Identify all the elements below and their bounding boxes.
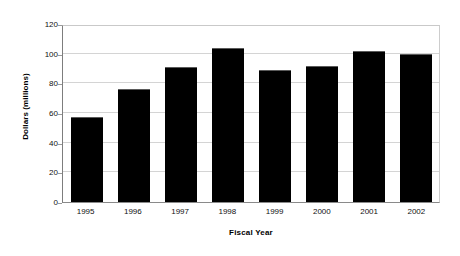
bar-chart-figure: Dollars (millions) 120 100 80 60 40 20 0…: [0, 0, 460, 256]
bar[interactable]: [306, 66, 338, 202]
bar-slot: [204, 26, 251, 202]
x-tick-label: 1998: [204, 207, 251, 221]
x-tick-label: 1999: [251, 207, 298, 221]
bar-series: [63, 26, 439, 202]
x-tick-label: 2000: [298, 207, 345, 221]
x-axis-tick-labels: 19951996199719981999200020012002: [62, 207, 440, 221]
bar-slot: [298, 26, 345, 202]
y-axis-title-text: Dollars (millions): [21, 73, 30, 140]
y-tick-label: 120: [32, 21, 58, 29]
bar-slot: [63, 26, 110, 202]
y-axis-tick-labels: 120 100 80 60 40 20 0: [32, 0, 58, 212]
y-tick-mark: [58, 203, 62, 204]
y-tick-label: 60: [32, 110, 58, 118]
y-tick-label: 20: [32, 169, 58, 177]
bar-slot: [345, 26, 392, 202]
bar-slot: [392, 26, 439, 202]
x-tick-label: 2001: [346, 207, 393, 221]
bar[interactable]: [400, 54, 432, 202]
x-axis-title: Fiscal Year: [62, 228, 440, 237]
y-tick-label: 100: [32, 51, 58, 59]
bar[interactable]: [118, 89, 150, 202]
x-tick-label: 1995: [62, 207, 109, 221]
x-tick-label: 1996: [109, 207, 156, 221]
plot-area: [62, 25, 440, 203]
y-tick-label: 80: [32, 80, 58, 88]
bar-slot: [251, 26, 298, 202]
bar[interactable]: [353, 51, 385, 202]
bar-slot: [157, 26, 204, 202]
bar[interactable]: [165, 67, 197, 202]
bar-slot: [110, 26, 157, 202]
y-tick-label: 40: [32, 140, 58, 148]
bar[interactable]: [212, 48, 244, 202]
bar[interactable]: [259, 70, 291, 202]
y-tick-label: 0: [32, 199, 58, 207]
x-tick-label: 2002: [393, 207, 440, 221]
bar[interactable]: [71, 117, 103, 202]
x-tick-label: 1997: [157, 207, 204, 221]
